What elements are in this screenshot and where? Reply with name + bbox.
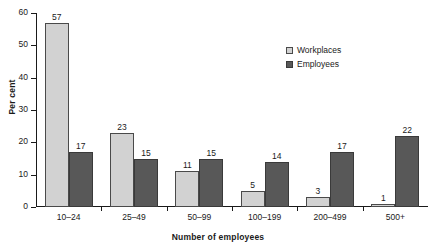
bar-value-label: 23	[117, 122, 126, 132]
bar-employees-0: 17	[69, 152, 93, 207]
bar-group: 317200–499	[297, 13, 362, 207]
y-axis-title: Per cent	[7, 57, 17, 137]
bar-employees-4: 17	[330, 152, 354, 207]
y-axis-tick-label: 40	[19, 72, 28, 82]
legend-label-employees: Employees	[297, 59, 339, 69]
y-axis-tick-label: 20	[19, 136, 28, 146]
bar-value-label: 17	[337, 141, 346, 151]
bar-group: 231525–49	[101, 13, 166, 207]
bar-value-label: 1	[381, 193, 386, 203]
bar-value-label: 14	[272, 151, 281, 161]
x-axis-tick	[363, 207, 364, 211]
x-axis-tick	[101, 207, 102, 211]
bar-group: 122500+	[363, 13, 428, 207]
bar-value-label: 11	[183, 160, 192, 170]
bar-value-label: 15	[141, 148, 150, 158]
y-axis-tick-label: 30	[19, 104, 28, 114]
bar-workplaces-5: 1	[371, 204, 395, 207]
bar-value-label: 15	[207, 148, 216, 158]
legend-swatch-workplaces	[286, 47, 293, 54]
y-axis-tick: 0	[31, 207, 36, 208]
bar-workplaces-0: 57	[45, 23, 69, 207]
x-axis-title: Number of employees	[0, 232, 436, 242]
x-axis-category-label: 200–499	[297, 212, 362, 222]
bar-workplaces-4: 3	[306, 197, 330, 207]
x-axis-tick	[297, 207, 298, 211]
bar-value-label: 5	[250, 180, 255, 190]
bar-value-label: 3	[316, 186, 321, 196]
y-axis-tick-label: 0	[23, 201, 28, 211]
x-axis-category-label: 10–24	[36, 212, 101, 222]
legend-item-workplaces: Workplaces	[286, 44, 341, 56]
bar-employees-2: 15	[199, 159, 223, 208]
bar-chart: Per cent 0102030405060 571710–24231525–4…	[0, 0, 436, 250]
x-axis-tick	[232, 207, 233, 211]
bar-workplaces-1: 23	[110, 133, 134, 207]
legend-label-workplaces: Workplaces	[297, 45, 341, 55]
x-axis-category-label: 500+	[363, 212, 428, 222]
bar-group: 571710–24	[36, 13, 101, 207]
bar-value-label: 57	[52, 12, 61, 22]
bar-value-label: 22	[403, 125, 412, 135]
bar-workplaces-3: 5	[241, 191, 265, 207]
chart-legend: Workplaces Employees	[286, 44, 341, 72]
bar-employees-1: 15	[134, 159, 158, 208]
x-axis-category-label: 100–199	[232, 212, 297, 222]
y-axis-tick-label: 60	[19, 7, 28, 17]
x-axis-category-label: 25–49	[101, 212, 166, 222]
bar-employees-3: 14	[265, 162, 289, 207]
legend-item-employees: Employees	[286, 58, 341, 70]
y-axis-tick-label: 10	[19, 169, 28, 179]
x-axis-category-label: 50–99	[167, 212, 232, 222]
legend-swatch-employees	[286, 61, 293, 68]
bar-group: 111550–99	[167, 13, 232, 207]
bar-employees-5: 22	[395, 136, 419, 207]
x-axis-tick	[167, 207, 168, 211]
bar-value-label: 17	[76, 141, 85, 151]
bar-group: 514100–199	[232, 13, 297, 207]
bar-workplaces-2: 11	[175, 171, 199, 207]
y-axis-tick-label: 50	[19, 39, 28, 49]
plot-area: 0102030405060 571710–24231525–49111550–9…	[36, 13, 428, 207]
